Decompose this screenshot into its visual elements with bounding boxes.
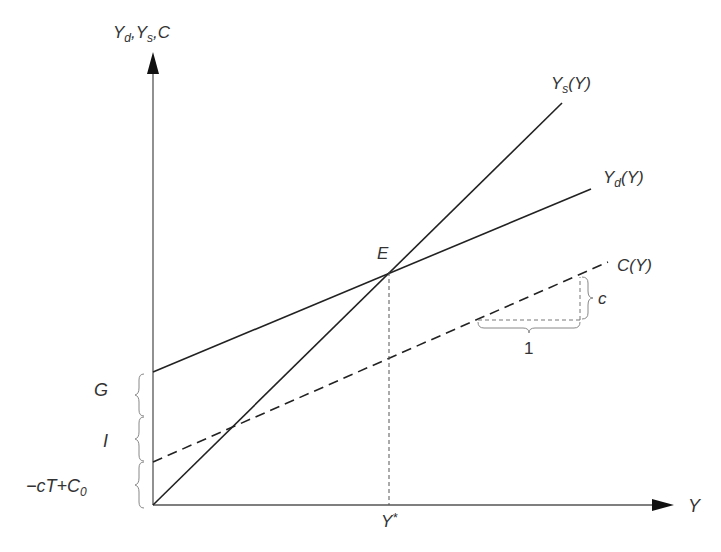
demand-line-label: Yd(Y) (603, 168, 644, 190)
run-brace-icon (478, 322, 580, 333)
x-axis-arrow-icon (652, 499, 674, 511)
autonomous-brace-icon (135, 462, 144, 508)
slope-rise-label: c (598, 289, 607, 308)
i-label: I (103, 431, 108, 451)
equilibrium-label: E (377, 244, 389, 263)
g-label: G (94, 380, 108, 400)
x-axis-label: Y (688, 496, 702, 516)
keynesian-cross-diagram: Yd,Ys,C Y Ys(Y) Yd(Y) C(Y) E Y* c 1 G I … (0, 0, 721, 552)
consumption-line (153, 262, 608, 462)
rise-brace-icon (582, 277, 593, 319)
consumption-line-label: C(Y) (617, 256, 652, 275)
i-brace-icon (135, 417, 144, 461)
y-axis-arrow-icon (147, 52, 159, 74)
supply-line (153, 103, 562, 505)
autonomous-consumption-label: −cT+C0 (26, 476, 87, 499)
g-brace-icon (135, 374, 144, 416)
y-axis-label: Yd,Ys,C (113, 23, 171, 45)
equilibrium-output-label: Y* (381, 510, 398, 531)
slope-run-label: 1 (524, 339, 533, 358)
supply-line-label: Ys(Y) (551, 74, 591, 96)
